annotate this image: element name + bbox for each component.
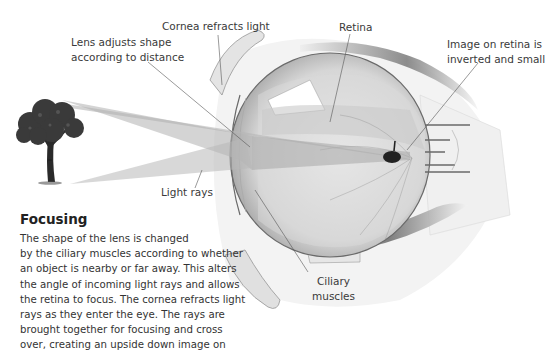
label-retina-image-line2: inverted and small bbox=[447, 52, 545, 67]
label-lens-line1: Lens adjusts shape bbox=[71, 35, 184, 50]
label-light-rays: Light rays bbox=[161, 185, 213, 200]
body-line: The shape of the lens is changed bbox=[20, 231, 240, 246]
body-line: by the ciliary muscles according to whet… bbox=[20, 246, 240, 261]
body-line: an object is nearby or far away. This al… bbox=[20, 261, 240, 276]
label-retina: Retina bbox=[339, 20, 372, 35]
label-ciliary-line1: Ciliary bbox=[312, 274, 355, 289]
section-body: The shape of the lens is changed by the … bbox=[20, 231, 240, 353]
body-line: the angle of incoming light rays and all… bbox=[20, 277, 240, 292]
tree-icon bbox=[16, 99, 84, 185]
body-line: rays as they enter the eye. The rays are bbox=[20, 307, 240, 322]
label-cornea: Cornea refracts light bbox=[162, 19, 270, 34]
label-ciliary-line2: muscles bbox=[312, 289, 355, 304]
label-retina-image: Image on retina is inverted and small bbox=[447, 37, 545, 67]
label-lens-line2: according to distance bbox=[71, 50, 184, 65]
body-line: brought together for focusing and cross bbox=[20, 322, 240, 337]
label-ciliary-muscles: Ciliary muscles bbox=[312, 274, 355, 304]
label-retina-image-line1: Image on retina is bbox=[447, 37, 545, 52]
section-heading: Focusing bbox=[20, 211, 88, 227]
body-line: over, creating an upside down image on bbox=[20, 337, 240, 352]
label-lens: Lens adjusts shape according to distance bbox=[71, 35, 184, 65]
body-line: the retina to focus. The cornea refracts… bbox=[20, 292, 240, 307]
